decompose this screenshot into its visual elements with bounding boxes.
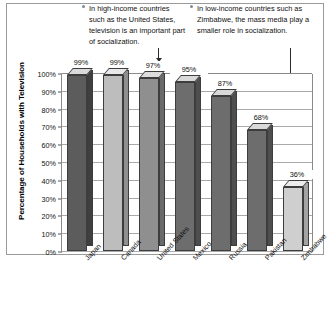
y-axis-tick-label: 60% (24, 141, 56, 150)
bullet-dot-icon (190, 5, 193, 8)
y-axis-ticks: 100%90%80%70%60%50%40%30%20%10%0% (24, 62, 56, 252)
bar-column[interactable]: 99% (67, 74, 87, 251)
bar-column[interactable]: 68% (247, 74, 267, 251)
callout-high-income-text: In high-income countries such as the Uni… (89, 3, 186, 47)
x-axis-labels: JapanCanadaUnited StatesMexicoRussiaPaki… (61, 256, 313, 322)
bar-side-face (123, 70, 129, 246)
bar-series: 99%99%97%95%87%68%36% (62, 74, 312, 251)
callout-low-income-text: In low-income countries such as Zimbabwe… (197, 3, 326, 36)
bar-column[interactable]: 87% (211, 74, 231, 251)
y-axis-tick-label: 0% (24, 248, 56, 257)
bar-column[interactable]: 99% (103, 74, 123, 251)
bar-front-face (247, 130, 267, 251)
y-axis-tick-label: 10% (24, 230, 56, 239)
bar-front-face (139, 78, 159, 251)
y-axis-tick-label: 100% (24, 70, 56, 79)
bar-front-face (67, 75, 87, 251)
callout-low-income: In low-income countries such as Zimbabwe… (190, 3, 326, 36)
bar-side-face (195, 77, 201, 246)
bar-value-label: 95% (170, 65, 208, 74)
bar-value-label: 68% (242, 113, 280, 122)
y-axis-tick-label: 30% (24, 194, 56, 203)
y-axis-tick-label: 40% (24, 176, 56, 185)
bar-side-face (231, 91, 237, 246)
y-axis-tick-label: 80% (24, 105, 56, 114)
annotation-callouts: In high-income countries such as the Uni… (0, 0, 330, 62)
bullet-dot-icon (82, 5, 85, 8)
bar-column[interactable]: 36% (283, 74, 303, 251)
bar-side-face (87, 70, 93, 246)
y-axis-tick-label: 70% (24, 123, 56, 132)
bar-front-face (103, 75, 123, 251)
bar-column[interactable]: 97% (139, 74, 159, 251)
bar-side-face (303, 182, 309, 246)
y-axis-tick-label: 90% (24, 87, 56, 96)
bar-front-face (211, 96, 231, 251)
bar-side-face (159, 73, 165, 246)
bar-chart: Percentage of Households with Television… (0, 62, 330, 323)
bar-value-label: 99% (62, 58, 100, 67)
plot-area: 99%99%97%95%87%68%36% (61, 74, 313, 252)
bar-value-label: 99% (98, 58, 136, 67)
bar-value-label: 87% (206, 79, 244, 88)
callout-high-income: In high-income countries such as the Uni… (82, 3, 186, 47)
bar-value-label: 97% (134, 61, 172, 70)
bar-value-label: 36% (278, 170, 316, 179)
bar-side-face (267, 125, 273, 246)
y-axis-tick-label: 20% (24, 212, 56, 221)
y-axis-tick-label: 50% (24, 159, 56, 168)
